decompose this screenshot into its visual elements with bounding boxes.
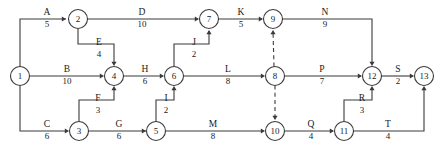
edge-name-K: K	[238, 7, 245, 17]
arrow-dummy-8-10-icon	[272, 116, 277, 120]
edge-duration-S: 2	[396, 76, 401, 86]
node-label-13: 13	[420, 71, 430, 81]
node-label-2: 2	[76, 14, 81, 24]
edge-duration-A: 5	[45, 19, 50, 29]
edge-name-P: P	[319, 64, 324, 74]
node-11[interactable]: 11	[335, 122, 354, 141]
arrow-G-icon	[142, 128, 146, 133]
nodes-layer: 12345678910111213	[11, 10, 434, 141]
edge-duration-I: 2	[164, 105, 169, 115]
edge-name-R: R	[359, 93, 366, 103]
node-2[interactable]: 2	[69, 10, 88, 29]
edge-label-B: B10	[63, 64, 73, 86]
edge-name-C: C	[44, 119, 50, 129]
edge-label-H: H6	[142, 64, 149, 86]
edge-path-N	[283, 19, 373, 64]
edge-name-I: I	[164, 93, 167, 103]
edge-name-E: E	[96, 37, 102, 47]
edge-labels-layer: A5B10C6D10E4F3G6H6I2J2K5L8M8N9P7Q4R3S2T4	[44, 7, 401, 141]
arrow-D-icon	[195, 16, 199, 21]
edge-name-N: N	[322, 7, 329, 17]
node-label-7: 7	[207, 14, 212, 24]
arrow-H-icon	[160, 73, 164, 78]
node-3[interactable]: 3	[70, 122, 89, 141]
edge-name-J: J	[192, 37, 196, 47]
edge-name-D: D	[139, 7, 146, 17]
edge-label-A: A5	[44, 7, 51, 29]
node-6[interactable]: 6	[165, 67, 184, 86]
edge-name-B: B	[64, 64, 70, 74]
network-diagram: 12345678910111213 A5B10C6D10E4F3G6H6I2J2…	[0, 0, 444, 148]
node-label-3: 3	[77, 126, 82, 136]
edge-path-dummy-8-9	[273, 31, 274, 67]
node-label-11: 11	[340, 126, 349, 136]
arrow-S-icon	[410, 73, 414, 78]
edge-duration-T: 4	[386, 131, 391, 141]
network-diagram-canvas: 12345678910111213 A5B10C6D10E4F3G6H6I2J2…	[0, 0, 444, 148]
arrow-F-icon	[111, 86, 116, 90]
edge-duration-E: 4	[97, 49, 102, 59]
node-label-1: 1	[18, 71, 23, 81]
edge-duration-P: 7	[320, 76, 325, 86]
edge-duration-Q: 4	[309, 131, 314, 141]
edge-name-M: M	[209, 119, 218, 129]
edge-label-F: F3	[95, 93, 100, 115]
edge-label-E: E4	[96, 37, 102, 59]
edge-label-J: J2	[192, 37, 197, 59]
arrow-I-icon	[171, 86, 176, 90]
arrow-M-icon	[261, 128, 265, 133]
node-13[interactable]: 13	[415, 67, 434, 86]
arrow-K-icon	[259, 16, 263, 21]
edge-label-K: K5	[238, 7, 245, 29]
node-5[interactable]: 5	[147, 122, 166, 141]
node-label-5: 5	[154, 126, 159, 136]
node-10[interactable]: 10	[266, 122, 285, 141]
edge-path-A	[20, 19, 66, 67]
arrow-A-icon	[62, 16, 66, 21]
edge-label-M: M8	[209, 119, 218, 141]
edge-label-P: P7	[319, 64, 324, 86]
edge-name-L: L	[225, 64, 231, 74]
node-label-10: 10	[271, 126, 281, 136]
edge-name-T: T	[385, 119, 391, 129]
edge-name-F: F	[95, 93, 100, 103]
edge-label-G: G6	[116, 119, 123, 141]
edge-duration-R: 3	[360, 105, 365, 115]
edge-duration-D: 10	[138, 19, 148, 29]
node-label-12: 12	[368, 71, 377, 81]
node-8[interactable]: 8	[266, 67, 285, 86]
arrow-Q-icon	[330, 128, 334, 133]
edge-label-N: N9	[322, 7, 329, 29]
node-1[interactable]: 1	[11, 67, 30, 86]
edge-label-D: D10	[138, 7, 148, 29]
edge-duration-G: 6	[117, 131, 122, 141]
edge-duration-B: 10	[63, 76, 73, 86]
edge-label-L: L8	[225, 64, 231, 86]
edge-name-G: G	[116, 119, 123, 129]
node-label-4: 4	[112, 71, 117, 81]
node-9[interactable]: 9	[264, 10, 283, 29]
edge-duration-M: 8	[211, 131, 216, 141]
edge-duration-H: 6	[143, 76, 148, 86]
edge-duration-K: 5	[239, 19, 244, 29]
arrow-R-icon	[369, 86, 374, 90]
edge-label-C: C6	[44, 119, 50, 141]
node-12[interactable]: 12	[363, 67, 382, 86]
arrow-P-icon	[358, 73, 362, 78]
edge-duration-C: 6	[45, 131, 50, 141]
arrow-B-icon	[100, 73, 104, 78]
edge-duration-F: 3	[96, 105, 101, 115]
edge-name-S: S	[395, 64, 400, 74]
node-label-6: 6	[172, 71, 177, 81]
edge-duration-J: 2	[192, 49, 197, 59]
edge-label-T: T4	[385, 119, 391, 141]
edge-label-R: R3	[359, 93, 366, 115]
edge-label-I: I2	[164, 93, 169, 115]
arrow-E-icon	[111, 62, 116, 66]
node-4[interactable]: 4	[105, 67, 124, 86]
arrow-dummy-8-9-icon	[270, 30, 275, 34]
edge-label-Q: Q4	[308, 119, 315, 141]
arrow-J-icon	[206, 30, 211, 34]
node-7[interactable]: 7	[200, 10, 219, 29]
arrow-N-icon	[369, 62, 374, 66]
